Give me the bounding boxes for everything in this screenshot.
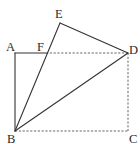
point-label-F: F [37, 40, 44, 54]
segment-ED [60, 23, 128, 53]
point-label-C: C [129, 132, 137, 144]
point-label-B: B [7, 132, 15, 144]
geometry-diagram: A F E D B C [0, 0, 140, 144]
point-label-E: E [55, 7, 63, 21]
segment-BD [15, 53, 128, 131]
point-label-A: A [6, 40, 15, 54]
point-label-D: D [129, 43, 138, 57]
